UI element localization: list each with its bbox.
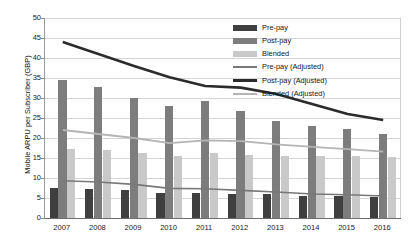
bar-pre-pay-2013 <box>263 194 271 218</box>
y-tick-mark <box>41 218 44 219</box>
x-tick-label-2007: 2007 <box>42 223 82 232</box>
chart-legend: Pre-payPost-payBlendedPre-pay (Adjusted)… <box>232 21 400 100</box>
bar-post-pay-2015 <box>343 129 351 218</box>
bar-post-pay-2007 <box>58 80 66 218</box>
x-tick-label-2009: 2009 <box>113 223 153 232</box>
legend-label: Post-pay (Adjusted) <box>262 77 327 84</box>
y-tick-mark <box>41 138 44 139</box>
x-tick-label-2008: 2008 <box>77 223 117 232</box>
legend-item-post-pay-adjusted-[interactable]: Post-pay (Adjusted) <box>232 74 400 87</box>
y-tick-mark <box>41 198 44 199</box>
y-tick-label: 25 <box>17 114 41 122</box>
legend-item-pre-pay-adjusted-[interactable]: Pre-pay (Adjusted) <box>232 61 400 74</box>
bar-post-pay-2014 <box>308 126 316 218</box>
x-tick-label-2011: 2011 <box>184 223 224 232</box>
bar-pre-pay-2012 <box>228 194 236 218</box>
bar-blended-2016 <box>388 157 396 218</box>
y-tick-label: 20 <box>17 134 41 142</box>
x-tick-label-2012: 2012 <box>220 223 260 232</box>
bar-pre-pay-2016 <box>370 197 378 218</box>
bar-pre-pay-2007 <box>50 188 58 218</box>
swatch-mark <box>233 93 257 95</box>
legend-swatch-line <box>232 74 258 87</box>
legend-item-post-pay[interactable]: Post-pay <box>232 34 400 47</box>
legend-swatch-line <box>232 61 258 74</box>
swatch-mark <box>233 51 257 57</box>
legend-label: Blended <box>262 50 289 57</box>
y-tick-label: 30 <box>17 94 41 102</box>
y-tick-mark <box>41 178 44 179</box>
bar-blended-2008 <box>103 150 111 218</box>
bar-blended-2012 <box>245 155 253 218</box>
y-tick-label: 45 <box>17 34 41 42</box>
bar-post-pay-2011 <box>201 101 209 218</box>
y-tick-label: 35 <box>17 74 41 82</box>
bar-blended-2014 <box>316 156 324 218</box>
y-tick-mark <box>41 158 44 159</box>
legend-label: Pre-pay (Adjusted) <box>262 63 324 70</box>
swatch-mark <box>233 25 257 31</box>
bar-pre-pay-2011 <box>192 193 200 218</box>
legend-item-blended[interactable]: Blended <box>232 47 400 60</box>
legend-swatch-line <box>232 87 258 100</box>
bar-post-pay-2010 <box>165 106 173 218</box>
bar-blended-2015 <box>352 156 360 218</box>
y-tick-label: 40 <box>17 54 41 62</box>
bar-pre-pay-2010 <box>156 193 164 218</box>
legend-swatch-bar <box>232 21 258 34</box>
bar-pre-pay-2009 <box>121 190 129 218</box>
x-tick-label-2016: 2016 <box>362 223 402 232</box>
y-tick-label: 0 <box>17 214 41 222</box>
legend-item-pre-pay[interactable]: Pre-pay <box>232 21 400 34</box>
x-tick-label-2014: 2014 <box>291 223 331 232</box>
y-tick-mark <box>41 58 44 59</box>
bar-post-pay-2016 <box>379 134 387 218</box>
legend-label: Post-pay <box>262 37 291 44</box>
mobile-arpu-chart: Mobile ARPU per Subscriber (GBP) 0510152… <box>0 0 411 250</box>
y-tick-mark <box>41 118 44 119</box>
bar-post-pay-2009 <box>130 98 138 218</box>
x-tick-label-2015: 2015 <box>327 223 367 232</box>
legend-swatch-bar <box>232 47 258 60</box>
y-tick-mark <box>41 18 44 19</box>
y-tick-mark <box>41 38 44 39</box>
swatch-mark <box>233 38 257 44</box>
y-tick-label: 5 <box>17 194 41 202</box>
y-tick-label: 15 <box>17 154 41 162</box>
bar-blended-2011 <box>210 153 218 218</box>
bar-blended-2010 <box>174 156 182 218</box>
x-tick-label-2010: 2010 <box>149 223 189 232</box>
bar-post-pay-2012 <box>236 111 244 218</box>
y-tick-label: 50 <box>17 14 41 22</box>
bar-blended-2007 <box>67 149 75 218</box>
bar-blended-2009 <box>138 153 146 218</box>
bar-post-pay-2008 <box>94 87 102 218</box>
legend-label: Pre-pay <box>262 24 288 31</box>
swatch-mark <box>233 79 257 82</box>
y-tick-mark <box>41 78 44 79</box>
bar-post-pay-2013 <box>272 121 280 218</box>
line-blended-adjusted- <box>63 130 383 152</box>
gridline <box>45 18 401 19</box>
bar-pre-pay-2014 <box>299 196 307 218</box>
y-tick-mark <box>41 98 44 99</box>
legend-item-blended-adjusted-[interactable]: Blended (Adjusted) <box>232 87 400 100</box>
x-tick-label-2013: 2013 <box>255 223 295 232</box>
legend-label: Blended (Adjusted) <box>262 90 325 97</box>
y-tick-label: 10 <box>17 174 41 182</box>
bar-pre-pay-2015 <box>334 196 342 218</box>
bar-pre-pay-2008 <box>85 189 93 218</box>
bar-blended-2013 <box>281 156 289 218</box>
swatch-mark <box>233 66 257 68</box>
legend-swatch-bar <box>232 34 258 47</box>
